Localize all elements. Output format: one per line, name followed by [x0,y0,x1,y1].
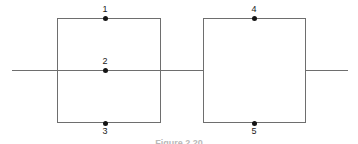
node-label-1: 1 [95,4,115,14]
node-dot-4 [252,16,257,21]
figure-caption: Figure 2.20 [0,138,358,144]
horizontal-line-right-segment [305,70,348,71]
node-dot-3 [103,121,108,126]
node-label-4: 4 [244,4,264,14]
node-label-3: 3 [95,126,115,136]
node-label-2: 2 [95,56,115,66]
right-square-shape [203,18,306,123]
node-dot-5 [252,121,257,126]
node-label-5: 5 [244,126,264,136]
horizontal-line-left-segment [12,70,204,71]
figure-diagram: 1 2 3 4 5 Figure 2.20 [0,0,358,144]
node-dot-2 [103,68,108,73]
node-dot-1 [103,16,108,21]
